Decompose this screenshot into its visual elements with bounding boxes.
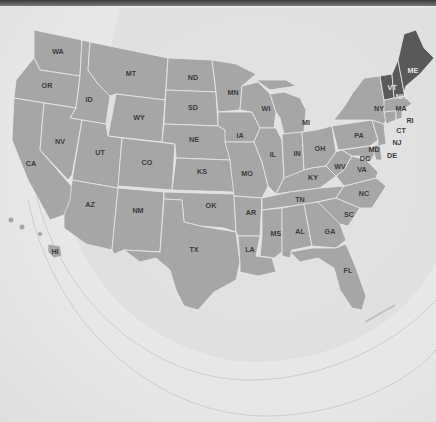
label-wi: WI bbox=[262, 104, 271, 113]
label-sd: SD bbox=[188, 103, 198, 112]
label-wy: WY bbox=[133, 113, 145, 122]
label-ri: RI bbox=[406, 116, 413, 125]
label-nd: ND bbox=[188, 73, 198, 82]
label-ny: NY bbox=[374, 104, 384, 113]
label-wa: WA bbox=[52, 47, 64, 56]
label-tx: TX bbox=[189, 245, 198, 254]
label-dc: DC bbox=[360, 154, 370, 163]
label-mt: MT bbox=[126, 69, 137, 78]
label-al: AL bbox=[295, 227, 305, 236]
state-nm[interactable] bbox=[112, 188, 164, 254]
label-nm: NM bbox=[132, 206, 143, 215]
label-az: AZ bbox=[85, 200, 95, 209]
label-co: CO bbox=[142, 158, 153, 167]
label-fl: FL bbox=[344, 266, 353, 275]
label-ky: KY bbox=[308, 173, 318, 182]
label-nv: NV bbox=[55, 137, 65, 146]
label-ms: MS bbox=[271, 229, 282, 238]
label-in: IN bbox=[293, 149, 300, 158]
label-sc: SC bbox=[344, 210, 354, 219]
label-nh: NH bbox=[396, 92, 406, 101]
label-or: OR bbox=[42, 81, 54, 90]
label-il: IL bbox=[270, 150, 277, 159]
label-ut: UT bbox=[95, 148, 105, 157]
state-hi-island-1[interactable] bbox=[8, 217, 14, 223]
label-de: DE bbox=[387, 151, 397, 160]
state-hi-island-3[interactable] bbox=[38, 232, 43, 237]
label-ar: AR bbox=[246, 208, 257, 217]
label-oh: OH bbox=[315, 144, 326, 153]
label-ca: CA bbox=[26, 159, 36, 168]
us-map-frame: WA OR CA ID NV MT WY UT AZ CO NM ND SD N… bbox=[0, 0, 436, 422]
label-ct: CT bbox=[396, 126, 406, 135]
label-ks: KS bbox=[197, 167, 207, 176]
label-nc: NC bbox=[359, 189, 369, 198]
label-la: LA bbox=[245, 245, 255, 254]
label-vt: VT bbox=[387, 83, 397, 92]
label-me: ME bbox=[408, 66, 419, 75]
state-az[interactable] bbox=[64, 180, 118, 250]
label-pa: PA bbox=[354, 131, 363, 140]
label-ga: GA bbox=[325, 227, 336, 236]
label-ok: OK bbox=[206, 201, 218, 210]
label-va: VA bbox=[357, 165, 366, 174]
label-ia: IA bbox=[236, 131, 243, 140]
us-map: WA OR CA ID NV MT WY UT AZ CO NM ND SD N… bbox=[0, 0, 436, 422]
label-mo: MO bbox=[241, 169, 253, 178]
label-nj: NJ bbox=[392, 138, 401, 147]
label-tn: TN bbox=[295, 195, 305, 204]
label-mn: MN bbox=[227, 88, 238, 97]
label-ne: NE bbox=[189, 135, 199, 144]
label-hi: HI bbox=[51, 247, 58, 256]
label-wv: WV bbox=[334, 162, 346, 171]
label-id: ID bbox=[85, 95, 92, 104]
label-mi: MI bbox=[302, 118, 310, 127]
state-hi-island-2[interactable] bbox=[19, 224, 25, 230]
label-ma: MA bbox=[395, 104, 406, 113]
label-md: MD bbox=[368, 145, 379, 154]
